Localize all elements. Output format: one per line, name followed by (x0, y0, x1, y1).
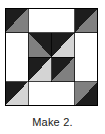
patch-edge-left-white (5, 33, 28, 82)
quilt-block-svg (5, 8, 98, 106)
quilt-block (5, 8, 98, 106)
quilt-block-figure: Make 2. (0, 0, 105, 134)
patch-edge-top-white (28, 8, 75, 33)
figure-caption: Make 2. (0, 116, 105, 129)
patch-edge-bottom-white (28, 82, 75, 107)
patch-edge-right-white (75, 33, 98, 82)
